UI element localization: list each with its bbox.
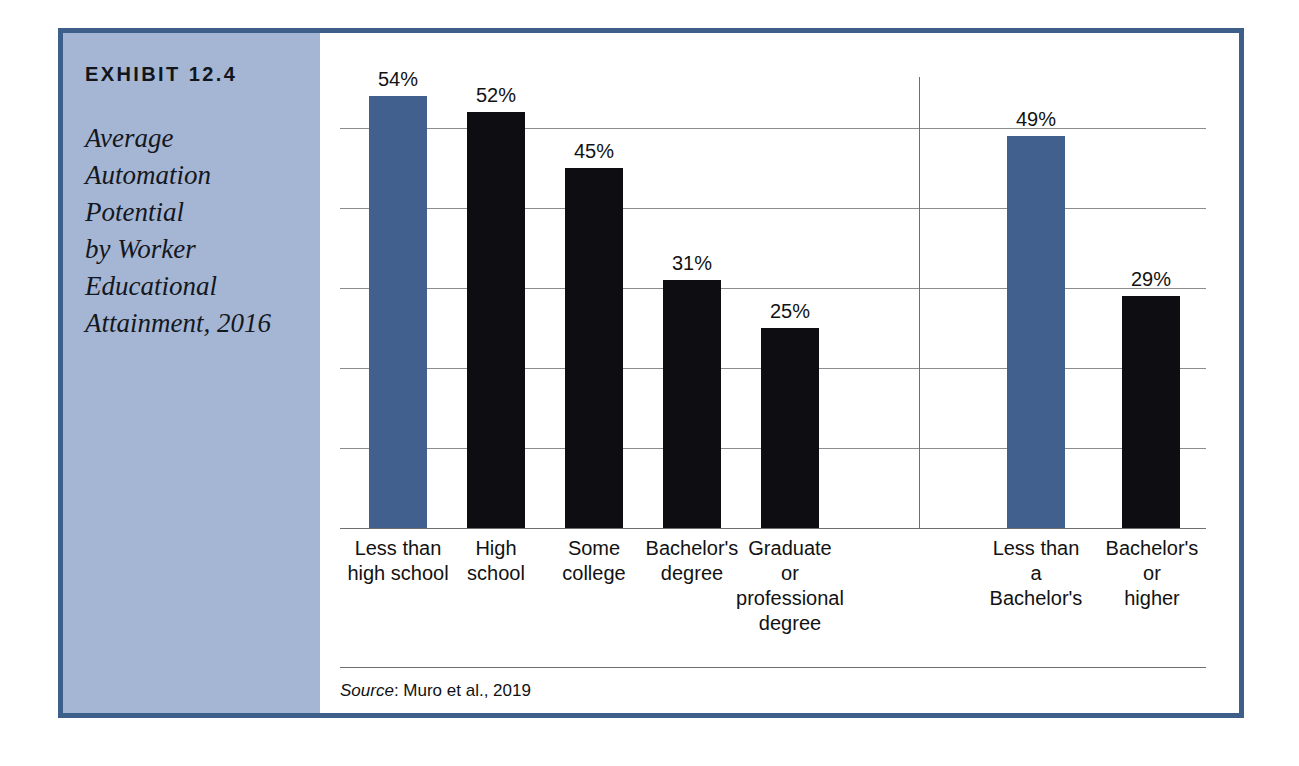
- exhibit-title-line-1: Automation: [85, 157, 300, 194]
- exhibit-title-line-3: by Worker: [85, 231, 300, 268]
- category-axis-labels: Less thanhigh schoolHighschoolSomecolleg…: [340, 536, 1206, 656]
- category-label-6-line-0: Bachelor's: [1093, 536, 1211, 561]
- source-citation: : Muro et al., 2019: [394, 681, 531, 700]
- exhibit-number: EXHIBIT 12.4: [85, 63, 300, 86]
- bar-6: [1122, 296, 1180, 528]
- bar-4: [761, 328, 819, 528]
- category-label-4-line-1: or: [726, 561, 854, 586]
- chart-panel: 54%52%45%31%25%49%29% Less thanhigh scho…: [320, 33, 1239, 713]
- source-prefix: Source: [340, 681, 394, 700]
- exhibit-caption-panel: EXHIBIT 12.4 AverageAutomationPotentialb…: [63, 33, 320, 713]
- bar-value-label-2: 45%: [549, 140, 639, 163]
- bar-0: [369, 96, 427, 528]
- bar-5: [1007, 136, 1065, 528]
- category-label-6-line-2: higher: [1093, 586, 1211, 611]
- bar-2: [565, 168, 623, 528]
- category-label-4-line-0: Graduate: [726, 536, 854, 561]
- exhibit-title: AverageAutomationPotentialby WorkerEduca…: [85, 120, 300, 342]
- bar-value-label-0: 54%: [353, 68, 443, 91]
- exhibit-title-line-4: Educational: [85, 268, 300, 305]
- category-label-6: Bachelor'sorhigher: [1093, 536, 1211, 611]
- bar-3: [663, 280, 721, 528]
- bar-1: [467, 112, 525, 528]
- category-label-6-line-1: or: [1093, 561, 1211, 586]
- exhibit-title-line-2: Potential: [85, 194, 300, 231]
- category-label-4-line-3: degree: [726, 611, 854, 636]
- axis-baseline: [340, 528, 1206, 529]
- bar-value-label-5: 49%: [991, 108, 1081, 131]
- bar-value-label-4: 25%: [745, 300, 835, 323]
- category-label-4: Graduateorprofessionaldegree: [726, 536, 854, 636]
- category-label-5: Less thanaBachelor's: [974, 536, 1098, 611]
- category-label-4-line-2: professional: [726, 586, 854, 611]
- exhibit-title-line-0: Average: [85, 120, 300, 157]
- exhibit-frame: EXHIBIT 12.4 AverageAutomationPotentialb…: [58, 28, 1244, 718]
- source-divider-rule: [340, 667, 1206, 668]
- bar-value-label-6: 29%: [1106, 268, 1196, 291]
- category-label-5-line-0: Less than: [974, 536, 1098, 561]
- exhibit-title-line-5: Attainment, 2016: [85, 305, 300, 342]
- bar-value-label-3: 31%: [647, 252, 737, 275]
- bar-value-label-1: 52%: [451, 84, 541, 107]
- category-label-5-line-1: a: [974, 561, 1098, 586]
- source-note: Source: Muro et al., 2019: [340, 681, 531, 701]
- category-label-5-line-2: Bachelor's: [974, 586, 1098, 611]
- group-divider-line: [919, 77, 920, 528]
- bar-chart-plot: 54%52%45%31%25%49%29%: [340, 33, 1206, 529]
